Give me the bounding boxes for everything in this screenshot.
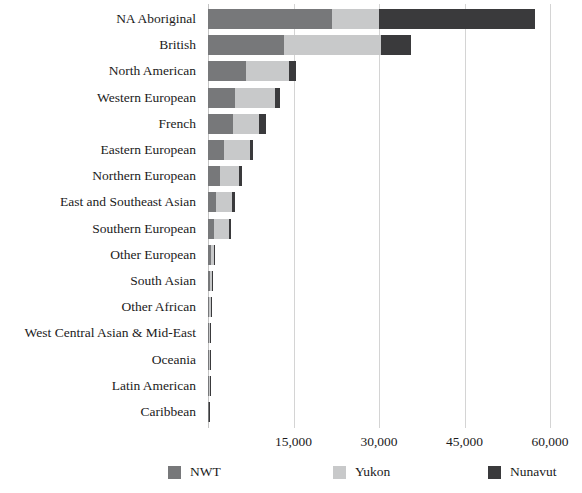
category-label: Western European [0,88,202,108]
bar-segment-nunavut[interactable] [379,9,535,29]
bar-segment-yukon[interactable] [284,35,381,55]
legend-label: NWT [190,464,221,480]
bar-segment-yukon[interactable] [332,9,379,29]
bar-segment-nwt[interactable] [208,114,233,134]
bar-row[interactable] [208,192,235,212]
category-label: Other European [0,245,202,265]
bar-segment-yukon[interactable] [233,114,259,134]
category-label: Southern European [0,219,202,239]
bar-row[interactable] [208,9,535,29]
bar-segment-nunavut[interactable] [214,245,215,265]
bar-segment-yukon[interactable] [246,61,289,81]
bar-segment-nunavut[interactable] [250,140,253,160]
category-label: Eastern European [0,140,202,160]
chart-legend: NWTYukonNunavut [0,462,582,486]
x-tick-label: 60,000 [531,434,568,450]
category-label: NA Aboriginal [0,9,202,29]
category-label: Oceania [0,350,202,370]
bar-row[interactable] [208,402,209,422]
bar-segment-nunavut[interactable] [210,323,211,343]
bar-segment-nunavut[interactable] [239,166,242,186]
x-axis-tick-labels: 15,00030,00045,00060,000 [208,428,568,454]
bar-segment-nwt[interactable] [208,140,224,160]
bar-row[interactable] [208,88,280,108]
bar-segment-nwt[interactable] [208,61,246,81]
bar-segment-nwt[interactable] [208,166,220,186]
x-tick-label: 15,000 [275,434,312,450]
bar-segment-nwt[interactable] [208,88,235,108]
bar-segment-yukon[interactable] [235,88,275,108]
gridline-60000 [550,4,551,428]
bar-row[interactable] [208,245,215,265]
bar-row[interactable] [208,376,210,396]
category-label: Northern European [0,166,202,186]
bar-segment-yukon[interactable] [224,140,250,160]
bar-row[interactable] [208,219,231,239]
bar-segment-yukon[interactable] [216,192,232,212]
bar-segment-nunavut[interactable] [229,219,232,239]
bar-segment-nunavut[interactable] [212,271,213,291]
bar-segment-nwt[interactable] [208,9,332,29]
x-tick-label: 45,000 [446,434,483,450]
legend-item-yukon[interactable]: Yukon [333,462,390,482]
bar-row[interactable] [208,114,266,134]
legend-item-nwt[interactable]: NWT [168,462,221,482]
category-label: West Central Asian & Mid-East [0,323,202,343]
category-axis-labels: NA AboriginalBritishNorth AmericanWester… [0,4,202,428]
legend-swatch-icon [333,466,346,479]
category-label: Latin American [0,376,202,396]
bar-rows [208,4,550,428]
legend-item-nunavut[interactable]: Nunavut [488,462,557,482]
x-tick-label: 30,000 [360,434,397,450]
bar-row[interactable] [208,166,242,186]
bar-row[interactable] [208,271,213,291]
bar-segment-nunavut[interactable] [259,114,266,134]
bar-segment-nunavut[interactable] [289,61,296,81]
bar-segment-nwt[interactable] [208,192,216,212]
category-label: French [0,114,202,134]
category-label: Caribbean [0,402,202,422]
bar-row[interactable] [208,350,210,370]
plot-area [208,4,550,428]
legend-label: Nunavut [510,464,557,480]
bar-segment-nunavut[interactable] [211,297,212,317]
category-label: North American [0,61,202,81]
bar-row[interactable] [208,61,296,81]
legend-swatch-icon [488,466,501,479]
bar-row[interactable] [208,140,253,160]
category-label: British [0,35,202,55]
category-label: East and Southeast Asian [0,192,202,212]
bar-segment-nunavut[interactable] [381,35,412,55]
bar-row[interactable] [208,323,211,343]
bar-segment-nwt[interactable] [208,35,284,55]
bar-segment-nunavut[interactable] [232,192,235,212]
bar-row[interactable] [208,297,211,317]
bar-row[interactable] [208,35,411,55]
category-label: South Asian [0,271,202,291]
legend-swatch-icon [168,466,181,479]
bar-segment-yukon[interactable] [220,166,239,186]
stacked-bar-chart: NA AboriginalBritishNorth AmericanWester… [0,0,582,493]
legend-label: Yukon [355,464,390,480]
bar-segment-nunavut[interactable] [275,88,280,108]
bar-segment-yukon[interactable] [214,219,228,239]
category-label: Other African [0,297,202,317]
